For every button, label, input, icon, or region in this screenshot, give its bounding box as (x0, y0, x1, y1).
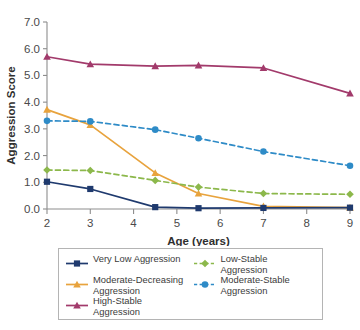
legend-swatch-circle-icon (193, 276, 217, 287)
y-tick-label: 5.0 (24, 69, 40, 81)
data-point-marker (87, 186, 93, 192)
data-point-marker (74, 260, 80, 266)
x-tick-label: 5 (174, 217, 180, 229)
chart-legend: Very Low AggressionLow-Stable Aggression… (58, 248, 323, 320)
y-tick-label: 7.0 (24, 16, 40, 28)
data-point-marker (86, 167, 94, 175)
legend-label: Very Low Aggression (93, 254, 181, 265)
legend-entry[interactable]: Moderate-Decreasing Aggression (65, 275, 189, 296)
legend-entry[interactable]: High-Stable Aggression (65, 296, 189, 317)
legend-entry[interactable]: Very Low Aggression (65, 254, 189, 275)
y-tick-label: 4.0 (24, 96, 40, 108)
data-point-marker (347, 205, 353, 211)
y-tick-label: 2.0 (24, 150, 40, 162)
x-tick-label: 9 (347, 217, 353, 229)
legend-swatch-square-icon (65, 255, 89, 266)
legend-swatch-triangle-icon (65, 297, 89, 308)
data-point-marker (43, 166, 51, 174)
x-axis-title: Age (years) (167, 235, 230, 246)
chart-plot-area: 0.01.02.03.04.05.06.07.023456789Age (yea… (0, 0, 360, 246)
legend-swatch-diamond-icon (193, 255, 217, 266)
legend-label: Moderate-Decreasing Aggression (93, 275, 183, 296)
data-point-marker (201, 281, 208, 288)
x-tick-label: 3 (87, 217, 93, 229)
x-tick-label: 8 (304, 217, 310, 229)
data-point-marker (195, 205, 201, 211)
y-axis-title: Aggression Score (5, 66, 17, 164)
data-point-marker (152, 204, 158, 210)
x-tick-label: 4 (130, 217, 137, 229)
y-tick-label: 0.0 (24, 203, 40, 215)
data-point-marker (260, 190, 268, 198)
legend-entry[interactable]: Moderate-Stable Aggression (193, 275, 317, 296)
data-point-marker (260, 205, 266, 211)
data-point-marker (195, 135, 202, 142)
series-group (43, 53, 354, 97)
data-point-marker (43, 106, 51, 113)
data-point-marker (346, 191, 354, 199)
data-point-marker (87, 118, 94, 125)
legend-label: Low-Stable Aggression (221, 254, 317, 275)
data-point-marker (347, 162, 354, 169)
x-tick-label: 7 (260, 217, 266, 229)
data-point-marker (195, 183, 203, 191)
y-tick-label: 1.0 (24, 176, 40, 188)
data-point-marker (44, 179, 50, 185)
legend-label: Moderate-Stable Aggression (221, 275, 290, 296)
data-point-marker (152, 126, 159, 133)
data-point-marker (44, 118, 51, 125)
y-tick-label: 3.0 (24, 123, 40, 135)
x-tick-label: 6 (217, 217, 223, 229)
data-point-marker (260, 148, 267, 155)
legend-label: High-Stable Aggression (93, 296, 189, 317)
y-tick-label: 6.0 (24, 43, 40, 55)
data-point-marker (151, 177, 159, 185)
legend-entry[interactable]: Low-Stable Aggression (193, 254, 317, 275)
aggression-trajectory-chart: 0.01.02.03.04.05.06.07.023456789Age (yea… (0, 0, 360, 330)
data-point-marker (201, 260, 209, 268)
x-tick-label: 2 (44, 217, 50, 229)
legend-swatch-triangle-icon (65, 276, 89, 287)
